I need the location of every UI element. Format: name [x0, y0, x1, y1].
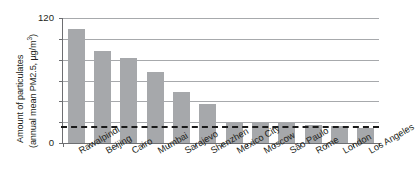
- y-axis-title-exponent: 3: [26, 37, 33, 41]
- y-axis-title-line-2-text: (annual mean PM2.5, µg/m: [28, 41, 38, 148]
- y-axis-title: Amount of particulates (annual mean PM2.…: [0, 0, 38, 150]
- y-tick-label: 0: [49, 137, 54, 148]
- bar: [147, 72, 164, 143]
- y-axis-title-paren: ): [28, 34, 38, 37]
- y-axis-title-line-1: Amount of particulates: [15, 55, 25, 143]
- y-axis-title-line-2: (annual mean PM2.5, µg/m3): [26, 34, 38, 148]
- plot-area: 0120: [62, 18, 379, 143]
- y-tick-label: 120: [38, 12, 54, 23]
- bar: [120, 58, 137, 143]
- bar-series: [63, 18, 379, 143]
